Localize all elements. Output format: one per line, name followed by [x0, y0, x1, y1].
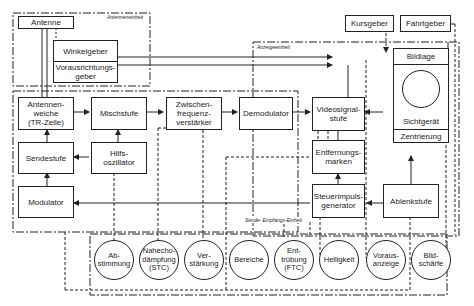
block-entfernungsmarken: Entfernungs- marken — [312, 140, 365, 174]
control-bildschaerfe: Bild- schärfe — [411, 240, 451, 280]
block-kursgeber: Kursgeber — [345, 15, 394, 32]
crt-screen-icon — [402, 70, 440, 108]
block-antennenweiche: Antennen- weiche (TR-Zelle) — [18, 97, 74, 130]
control-enttruebung: Ent- trübung (FTC) — [274, 240, 314, 280]
block-demodulator: Demodulator — [239, 97, 293, 130]
block-winkelgeber: Winkelgeber — [53, 40, 118, 62]
control-abstimmung: Ab- stimmung — [94, 240, 134, 280]
control-verstaerkung: Ver- stärkung — [184, 240, 224, 280]
transceiver-unit-label: Sende- Empfangs-Einheit — [244, 217, 303, 223]
block-ablenkstufe: Ablenkstufe — [383, 184, 439, 218]
control-bereiche: Bereiche — [229, 240, 269, 280]
block-zf-verstaerker: Zwischen- frequenz- verstärker — [166, 97, 222, 130]
block-vorausrichtungsgeber: Vorausrichtungs- geber — [53, 61, 118, 83]
control-helligkeit: Helligkeit — [319, 240, 359, 280]
control-vorausanzeige: Voraus- anzeige — [366, 240, 406, 280]
block-hilfsoszillator: Hilfs- oszillator — [91, 142, 147, 174]
block-mischstufe: Mischstufe — [91, 97, 147, 130]
display-unit-label: Anzeigeeinheit — [256, 44, 291, 50]
block-steuerimpulsgenerator: Steuerimpuls- generator — [312, 184, 365, 218]
sichtgeraet-label: Sichtgerät — [403, 117, 439, 126]
control-nahechodaempfung: Nahecho- dämpfung (STC) — [139, 240, 179, 280]
block-sendestufe: Sendestufe — [18, 142, 74, 174]
block-modulator: Modulator — [18, 186, 74, 218]
block-zentrierung: Zentrierung — [393, 129, 449, 143]
block-bildlage: Bildlage — [393, 48, 449, 65]
block-sichtgeraet: Sichtgerät — [393, 64, 449, 130]
antenna-unit-label: Antenneneinheit — [106, 14, 144, 20]
block-fahrtgeber: Fahrtgeber — [400, 15, 451, 32]
block-videosignalstufe: Videosignal- stufe — [312, 97, 365, 131]
block-antenne: Antenne — [18, 16, 74, 29]
